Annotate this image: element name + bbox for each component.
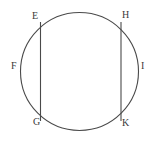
figure-canvas [0, 0, 153, 142]
vertex-label-f: F [11, 61, 17, 71]
vertex-label-e: E [32, 11, 38, 21]
vertex-label-g: G [33, 117, 40, 127]
vertex-label-h: H [122, 10, 129, 20]
vertex-label-i: I [141, 61, 144, 71]
geometry-figure: E H F I G K [0, 0, 153, 142]
vertex-label-k: K [122, 118, 129, 128]
